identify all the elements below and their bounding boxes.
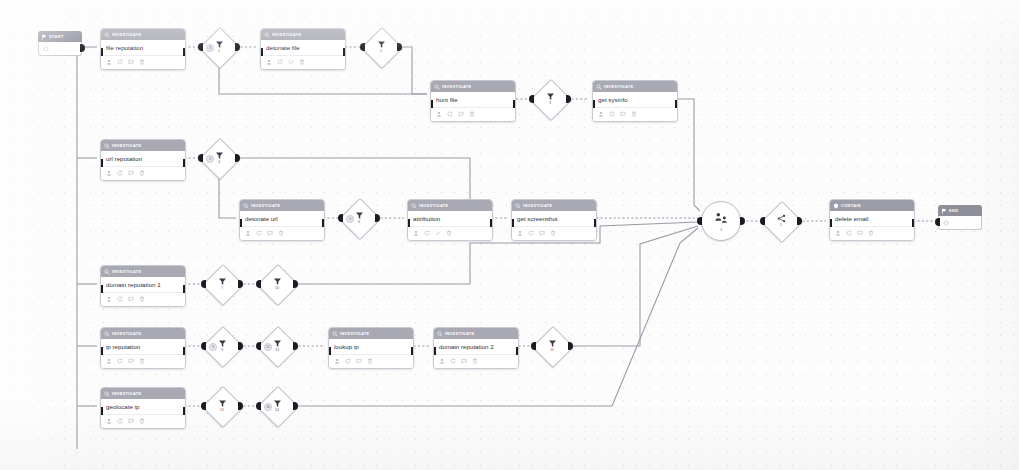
node-start[interactable]: START	[38, 31, 82, 56]
comment-icon[interactable]	[857, 230, 863, 236]
card-out-port[interactable]	[343, 48, 346, 56]
trash-icon[interactable]	[631, 111, 637, 117]
refresh-icon[interactable]	[846, 230, 852, 236]
user-icon[interactable]	[106, 59, 112, 65]
decision-in-port[interactable]	[529, 95, 534, 103]
trash-icon[interactable]	[139, 418, 145, 424]
user-icon[interactable]	[106, 170, 112, 176]
card-out-port[interactable]	[912, 219, 915, 227]
decision-in-port[interactable]	[201, 342, 206, 350]
decision-in-port[interactable]	[531, 342, 536, 350]
decision-in-port[interactable]	[256, 342, 261, 350]
node-ip-reputation[interactable]: INVESTIGATE ip reputation	[100, 327, 186, 369]
node-delete-email[interactable]: CONTAIN delete email	[829, 199, 915, 241]
node-decision-d3[interactable]: 3	[533, 82, 567, 116]
card-out-port[interactable]	[183, 48, 186, 56]
refresh-icon[interactable]	[277, 59, 283, 65]
comment-icon[interactable]	[267, 230, 273, 236]
card-out-port[interactable]	[516, 347, 519, 355]
node-join-prompt[interactable]: 1	[701, 201, 741, 241]
user-icon[interactable]	[439, 358, 445, 364]
card-out-port[interactable]	[411, 347, 414, 355]
node-decision-d12[interactable]: 15	[205, 389, 239, 423]
node-hunt-file[interactable]: INVESTIGATE hunt file	[430, 80, 516, 122]
node-decision-d1[interactable]: 1 3	[202, 30, 236, 64]
branch-in-port[interactable]	[760, 217, 765, 225]
user-icon[interactable]	[598, 111, 604, 117]
card-in-port[interactable]	[260, 48, 263, 56]
card-in-port[interactable]	[511, 219, 514, 227]
refresh-icon[interactable]	[117, 358, 123, 364]
user-icon[interactable]	[106, 358, 112, 364]
node-domain-reputation-1[interactable]: INVESTIGATE domain reputation 1	[100, 265, 186, 307]
user-icon[interactable]	[413, 230, 419, 236]
card-in-port[interactable]	[430, 100, 433, 108]
user-icon[interactable]	[436, 111, 442, 117]
decision-in-port[interactable]	[201, 402, 206, 410]
trash-icon[interactable]	[139, 59, 145, 65]
code-icon[interactable]	[288, 59, 294, 65]
end-in-port[interactable]	[935, 218, 940, 226]
comment-icon[interactable]	[128, 59, 134, 65]
comment-icon[interactable]	[539, 230, 545, 236]
comment-icon[interactable]	[128, 296, 134, 302]
refresh-icon[interactable]	[117, 296, 123, 302]
node-decision-d6[interactable]: 7	[205, 267, 239, 301]
comment-icon[interactable]	[128, 418, 134, 424]
refresh-icon[interactable]	[117, 59, 123, 65]
decision-in-port[interactable]	[198, 43, 203, 51]
user-icon[interactable]	[517, 230, 523, 236]
card-out-port[interactable]	[322, 219, 325, 227]
trash-icon[interactable]	[139, 170, 145, 176]
user-icon[interactable]	[106, 418, 112, 424]
refresh-icon[interactable]	[117, 170, 123, 176]
decision-in-port[interactable]	[201, 280, 206, 288]
node-decision-d10[interactable]: 13 12	[260, 329, 294, 363]
user-icon[interactable]	[106, 296, 112, 302]
trash-icon[interactable]	[469, 111, 475, 117]
node-decision-d5[interactable]: 6 5	[342, 201, 376, 235]
trash-icon[interactable]	[139, 358, 145, 364]
refresh-icon[interactable]	[424, 230, 430, 236]
trash-icon[interactable]	[446, 230, 452, 236]
card-in-port[interactable]	[328, 347, 331, 355]
card-in-port[interactable]	[100, 285, 103, 293]
check-icon[interactable]	[435, 230, 441, 236]
join-in-port[interactable]	[697, 217, 702, 225]
node-decision-d2[interactable]: 2	[364, 30, 398, 64]
user-icon[interactable]	[266, 59, 272, 65]
card-in-port[interactable]	[100, 347, 103, 355]
node-file-reputation[interactable]: INVESTIGATE file reputation	[100, 28, 186, 70]
node-detonate-file[interactable]: INVESTIGATE detonate file	[260, 28, 346, 70]
trash-icon[interactable]	[868, 230, 874, 236]
refresh-icon[interactable]	[609, 111, 615, 117]
node-decision-d9[interactable]: 9 9	[205, 329, 239, 363]
comment-icon[interactable]	[458, 111, 464, 117]
node-url-reputation[interactable]: INVESTIGATE url reputation	[100, 139, 186, 181]
node-geolocate-ip[interactable]: INVESTIGATE geolocate ip	[100, 387, 186, 429]
card-in-port[interactable]	[433, 347, 436, 355]
node-detonate-url[interactable]: INVESTIGATE detonate url	[239, 199, 325, 241]
comment-icon[interactable]	[356, 358, 362, 364]
trash-icon[interactable]	[550, 230, 556, 236]
trash-icon[interactable]	[367, 358, 373, 364]
card-in-port[interactable]	[592, 100, 595, 108]
decision-in-port[interactable]	[256, 280, 261, 288]
card-out-port[interactable]	[513, 100, 516, 108]
node-get-sysinfo[interactable]: INVESTIGATE get sysinfo	[592, 80, 678, 122]
card-in-port[interactable]	[407, 219, 410, 227]
comment-icon[interactable]	[128, 358, 134, 364]
node-domain-reputation-2[interactable]: INVESTIGATE domain reputation 2	[433, 327, 519, 369]
decision-in-port[interactable]	[360, 43, 365, 51]
refresh-icon[interactable]	[256, 230, 262, 236]
card-in-port[interactable]	[100, 48, 103, 56]
comment-icon[interactable]	[620, 111, 626, 117]
comment-icon[interactable]	[128, 170, 134, 176]
node-decision-d7[interactable]: 10	[260, 267, 294, 301]
card-in-port[interactable]	[239, 219, 242, 227]
decision-in-port[interactable]	[338, 214, 343, 222]
card-out-port[interactable]	[490, 219, 493, 227]
node-end[interactable]: END	[938, 205, 982, 230]
card-in-port[interactable]	[829, 219, 832, 227]
card-out-port[interactable]	[183, 347, 186, 355]
